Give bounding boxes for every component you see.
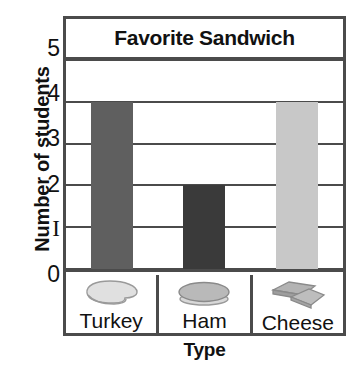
bar-ham[interactable] (183, 185, 225, 269)
category-label-ham: Ham (182, 308, 226, 334)
y-axis-tick-labels: 0I2345 (36, 48, 60, 274)
category-cell-ham[interactable]: Ham (159, 275, 252, 333)
y-tick-1: I (36, 217, 60, 241)
bar-slot-ham (158, 60, 250, 269)
x-axis-title: Type (63, 339, 346, 361)
y-tick-3: 3 (36, 126, 60, 150)
y-tick-5: 5 (36, 36, 60, 60)
bar-turkey[interactable] (91, 102, 133, 269)
cheese-slices-icon (253, 279, 343, 309)
category-cell-cheese[interactable]: Cheese (253, 275, 343, 333)
category-label-cheese: Cheese (262, 310, 334, 336)
plot-area (66, 60, 343, 272)
y-tick-0: 0 (36, 262, 60, 286)
chart-title-band: Favorite Sandwich (66, 19, 343, 60)
bar-slot-turkey (66, 60, 158, 269)
chart-title: Favorite Sandwich (114, 26, 294, 50)
y-tick-2: 2 (36, 172, 60, 196)
ham-slice-icon (159, 279, 249, 307)
category-label-turkey: Turkey (79, 308, 142, 334)
category-legend-row: TurkeyHamCheese (66, 275, 343, 333)
bar-chart-figure: Number of students 0I2345 Favorite Sandw… (0, 0, 359, 369)
y-tick-4: 4 (36, 81, 60, 105)
bar-cheese[interactable] (276, 102, 318, 269)
category-cell-turkey[interactable]: Turkey (66, 275, 159, 333)
turkey-slice-icon (66, 279, 156, 307)
bar-slot-cheese (251, 60, 343, 269)
chart-frame: Favorite Sandwich TurkeyHamCheese (63, 16, 346, 336)
